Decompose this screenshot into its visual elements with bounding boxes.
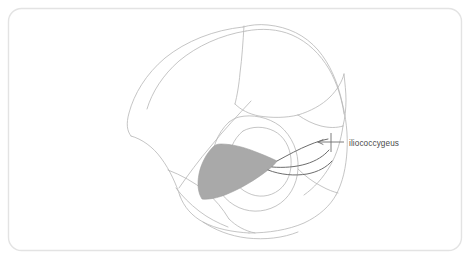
anatomy-figure-svg: iliococcygeus: [0, 0, 470, 259]
annotation-label-iliococcygeus: iliococcygeus: [349, 139, 399, 148]
figure-background: [0, 0, 470, 259]
figure-container: iliococcygeus: [0, 0, 470, 259]
